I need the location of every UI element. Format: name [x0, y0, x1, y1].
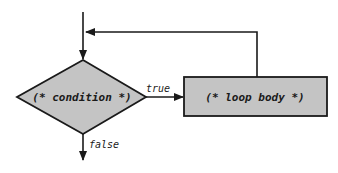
condition-label: (* condition *)	[32, 91, 131, 104]
true-label: true	[146, 83, 170, 94]
while-loop-flowchart: (* condition *) true (* loop body *) fal…	[0, 0, 338, 173]
loop-back-arrow	[86, 32, 257, 77]
false-label: false	[89, 139, 119, 150]
loop-body-label: (* loop body *)	[205, 91, 304, 104]
